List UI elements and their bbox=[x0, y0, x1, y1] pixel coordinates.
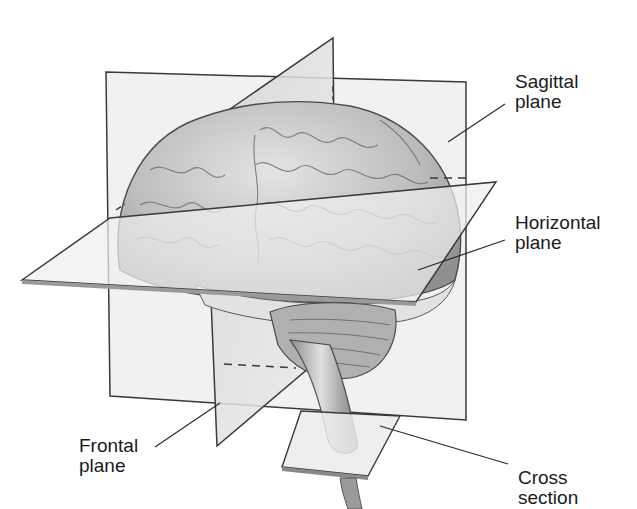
cross-label-line2: section bbox=[518, 488, 578, 508]
frontal-leader bbox=[155, 403, 220, 447]
frontal-label-line1: Frontal bbox=[79, 436, 138, 456]
cross-leader bbox=[380, 426, 508, 464]
cross-section-plane bbox=[282, 411, 400, 509]
horizontal-label-line2: plane bbox=[515, 233, 601, 253]
sagittal-plane-label: Sagittal plane bbox=[515, 72, 578, 112]
cross-label-line1: Cross bbox=[518, 468, 578, 488]
sagittal-label-line1: Sagittal bbox=[515, 72, 578, 92]
sagittal-label-line2: plane bbox=[515, 92, 578, 112]
horizontal-plane-label: Horizontal plane bbox=[515, 213, 601, 253]
horizontal-label-line1: Horizontal bbox=[515, 213, 601, 233]
cross-section-label: Cross section bbox=[518, 468, 578, 508]
frontal-label-line2: plane bbox=[79, 456, 138, 476]
frontal-plane-label: Frontal plane bbox=[79, 436, 138, 476]
